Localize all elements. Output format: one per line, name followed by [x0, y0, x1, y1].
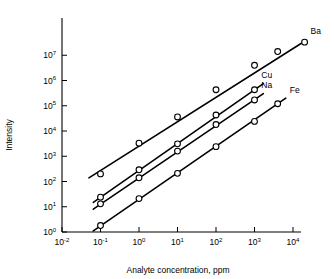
log-log-chart: 10-210-1100101102103104 1001011021031041…	[0, 0, 334, 279]
data-point-marker	[136, 140, 142, 146]
series-line-fe	[93, 98, 285, 231]
data-point-marker	[175, 170, 181, 176]
chart-figure: 10-210-1100101102103104 1001011021031041…	[0, 0, 334, 279]
y-tick-label: 105	[43, 100, 56, 111]
data-point-marker	[136, 167, 142, 173]
x-tick-label: 10-2	[55, 237, 70, 248]
data-point-marker	[175, 148, 181, 154]
y-tick-label: 103	[43, 151, 56, 162]
y-tick-label: 106	[43, 75, 56, 86]
series-line-ba	[89, 41, 305, 178]
data-point-marker	[252, 97, 258, 103]
data-point-marker	[136, 196, 142, 202]
x-axis-ticks: 10-210-1100101102103104	[55, 227, 300, 247]
y-tick-label: 101	[43, 201, 56, 212]
data-point-marker	[275, 101, 281, 107]
data-point-marker	[302, 39, 308, 45]
data-point-marker	[213, 144, 219, 150]
data-point-marker	[98, 171, 104, 177]
x-tick-label: 103	[248, 237, 261, 248]
x-tick-label: 104	[287, 237, 300, 248]
data-point-marker	[213, 87, 219, 93]
data-point-marker	[98, 201, 104, 207]
data-point-marker	[98, 223, 104, 229]
y-axis-title: Intensity	[4, 118, 14, 150]
y-tick-label: 104	[43, 126, 56, 137]
x-tick-label: 101	[171, 237, 184, 248]
series-label-na: Na	[261, 80, 272, 90]
x-tick-label: 102	[210, 237, 223, 248]
data-point-marker	[252, 118, 258, 124]
data-point-marker	[275, 49, 281, 55]
data-point-marker	[98, 194, 104, 200]
data-point-marker	[252, 62, 258, 68]
data-point-marker	[136, 175, 142, 181]
data-point-marker	[213, 122, 219, 128]
series-label-fe: Fe	[290, 85, 300, 95]
data-point-marker	[252, 87, 258, 93]
x-tick-label: 100	[133, 237, 146, 248]
y-axis-ticks: 100101102103104105106107	[43, 50, 67, 237]
data-point-marker	[213, 112, 219, 118]
x-axis-title: Analyte concentration, ppm	[126, 265, 229, 275]
y-tick-label: 100	[43, 227, 56, 238]
y-tick-label: 102	[43, 176, 56, 187]
data-point-marker	[175, 141, 181, 147]
data-series	[89, 39, 308, 231]
series-label-cu: Cu	[261, 70, 272, 80]
x-tick-label: 10-1	[93, 237, 108, 248]
series-label-ba: Ba	[311, 26, 322, 36]
series-labels: BaCuNaFe	[261, 26, 321, 95]
data-point-marker	[175, 114, 181, 120]
y-tick-label: 107	[43, 50, 56, 61]
